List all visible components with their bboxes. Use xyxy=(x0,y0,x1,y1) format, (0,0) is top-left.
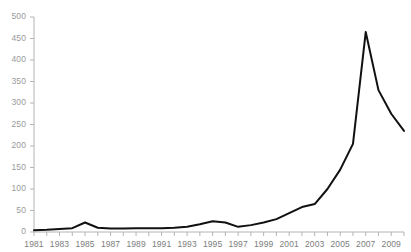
y-tick-label: 0 xyxy=(0,226,26,236)
y-tick-label: 350 xyxy=(0,76,26,86)
y-tick-label: 450 xyxy=(0,33,26,43)
y-tick-label: 100 xyxy=(0,183,26,193)
y-tick-label: 50 xyxy=(0,205,26,215)
y-axis xyxy=(30,17,34,232)
y-tick-label: 400 xyxy=(0,54,26,64)
y-tick-label: 300 xyxy=(0,97,26,107)
y-tick-label: 250 xyxy=(0,119,26,129)
line-chart: 050100150200250300350400450500 198119831… xyxy=(0,0,411,252)
x-tick-label: 2009 xyxy=(376,239,406,249)
y-tick-label: 500 xyxy=(0,11,26,21)
plot-area xyxy=(0,0,411,252)
y-tick-label: 200 xyxy=(0,140,26,150)
data-series-line xyxy=(34,32,404,230)
x-axis xyxy=(34,232,404,236)
y-tick-label: 150 xyxy=(0,162,26,172)
